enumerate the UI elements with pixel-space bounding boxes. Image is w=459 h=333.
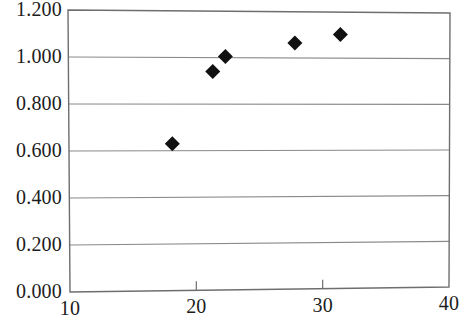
data-point-marker (287, 35, 302, 50)
data-point-marker (333, 27, 348, 42)
y-axis-tick-label: 0.200 (0, 234, 62, 254)
chart-canvas (0, 0, 459, 333)
x-axis-tick-label: 40 (424, 293, 459, 313)
y-axis-tick-label: 1.200 (0, 0, 62, 19)
data-point-marker (205, 64, 220, 79)
y-axis-tick-label: 0.600 (0, 140, 62, 160)
y-axis-tick-label: 1.000 (0, 46, 62, 66)
gridline (68, 57, 450, 59)
y-axis-tick-label: 0.400 (0, 187, 62, 207)
scatter-chart: 0.0000.2000.4000.6000.8001.0001.200 1020… (0, 0, 459, 333)
x-axis-tick-label: 30 (298, 295, 348, 315)
x-axis-tick-label: 10 (45, 298, 95, 318)
y-axis-tick-label: 0.800 (0, 93, 62, 113)
gridline-group (68, 57, 450, 245)
gridline (69, 150, 450, 151)
gridline (70, 241, 450, 245)
data-point-group (165, 27, 348, 151)
gridline (69, 196, 449, 198)
data-point-marker (165, 136, 180, 151)
x-axis-tick-label: 20 (171, 296, 221, 316)
data-point-marker (218, 49, 233, 64)
